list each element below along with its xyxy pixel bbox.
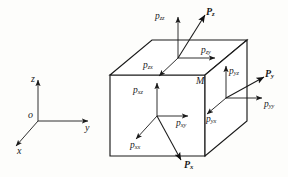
label-pyy-sub: yy [269,102,274,109]
label-pzx-sub: zx [148,63,153,70]
label-pyy: pyy [264,100,274,110]
axis-origin-label: o [28,110,33,120]
label-Px-sub: x [190,163,193,170]
cube-corner-label-M: M [196,76,204,86]
label-pzz-sub: zz [160,14,165,21]
label-pxz-sub: xz [138,88,143,95]
label-pyz: pyz [229,67,239,77]
label-pzy-sub: zy [206,48,211,55]
axis-label-x: x [17,146,21,156]
axis-label-y: y [85,123,89,133]
label-Pz-resultant: Pz [206,7,215,18]
label-pxx: pxx [130,141,140,151]
label-Py-sub: y [271,72,274,79]
label-pzx: pzx [143,61,153,71]
figure-vector-canvas [0,0,288,177]
label-pzz: pzz [155,12,164,22]
label-pyx: pyx [206,115,216,125]
stress-tensor-figure: z y x o M pzz pzy pzx Pz pxz pxy pxx Px … [0,0,288,177]
label-Pz-sub: z [212,10,214,17]
label-pzy: pzy [201,46,211,56]
cube-front-face [110,75,205,156]
label-pxy-sub: xy [181,121,186,128]
label-Py-resultant: Py [265,69,274,80]
label-pxy: pxy [176,119,186,129]
label-pyz-sub: yz [234,69,239,76]
label-pxx-sub: xx [135,143,140,150]
label-Px-resultant: Px [184,160,193,171]
axis-line-x [16,121,38,146]
axis-label-z: z [31,74,35,84]
label-pxz: pxz [133,86,143,96]
coordinate-axes-triad [16,80,88,146]
label-pyx-sub: yx [211,117,216,124]
